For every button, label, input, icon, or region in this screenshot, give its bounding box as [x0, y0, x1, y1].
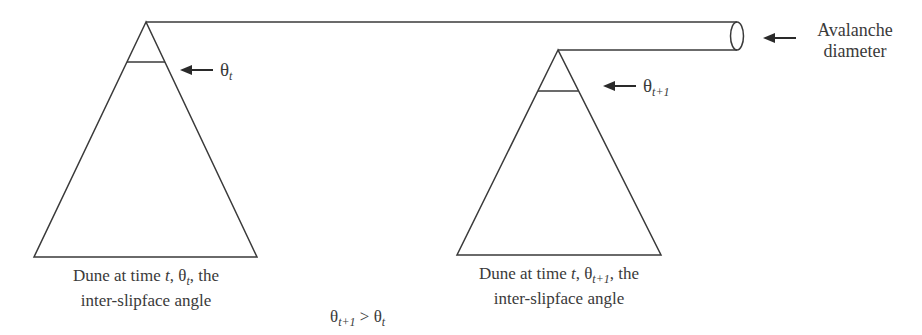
tube-end-ellipse — [731, 22, 744, 50]
dune-angle-diagram: θt θt+1 Avalanche diameter Dune at time … — [0, 0, 922, 335]
avalanche-diameter-label: Avalanche diameter — [800, 20, 910, 62]
theta-t1-label: θt+1 — [643, 76, 670, 102]
right-dune-triangle — [457, 50, 661, 255]
left-dune-triangle — [34, 22, 257, 257]
angle-relation: θt+1 > θt — [330, 307, 385, 332]
right-dune-caption: Dune at time t, θt+1, the inter-slipface… — [446, 264, 672, 308]
left-dune-caption: Dune at time t, θt, the inter-slipface a… — [30, 266, 262, 310]
theta-t-label: θt — [220, 60, 232, 86]
